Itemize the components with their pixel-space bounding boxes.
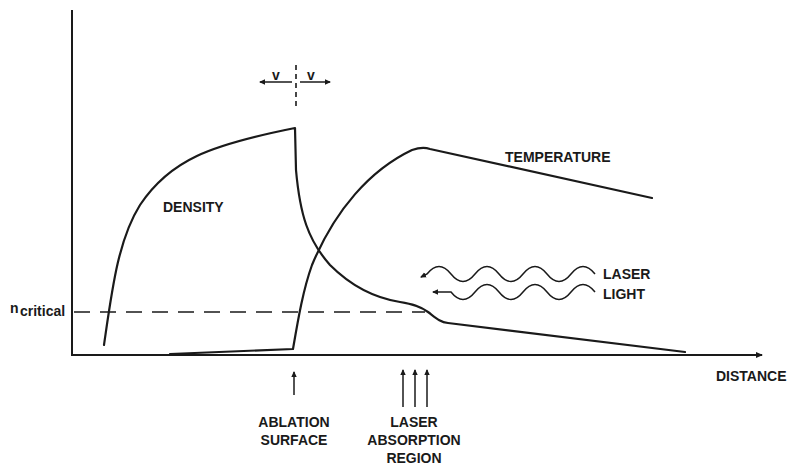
absorption-region-annotation: LASER ABSORPTION REGION bbox=[367, 370, 460, 466]
density-label: DENSITY bbox=[163, 199, 224, 215]
absorption-line1: LASER bbox=[390, 414, 437, 430]
velocity-left-label: v bbox=[272, 67, 280, 83]
absorption-line3: REGION bbox=[386, 450, 441, 466]
absorption-line2: ABSORPTION bbox=[367, 432, 460, 448]
n-critical-main: n bbox=[10, 300, 19, 316]
x-axis-label: DISTANCE bbox=[716, 368, 787, 384]
laser-light-waves: LASER LIGHT bbox=[421, 266, 650, 302]
velocity-marker: v v bbox=[260, 65, 330, 108]
laser-label-line2: LIGHT bbox=[603, 286, 645, 302]
n-critical-label: n critical bbox=[10, 300, 65, 319]
ablation-surface-annotation: ABLATION SURFACE bbox=[258, 372, 329, 448]
n-critical-subscript: critical bbox=[20, 303, 65, 319]
laser-label-line1: LASER bbox=[603, 266, 650, 282]
ablation-line2: SURFACE bbox=[261, 432, 328, 448]
ablation-line1: ABLATION bbox=[258, 414, 329, 430]
temperature-label: TEMPERATURE bbox=[505, 149, 611, 165]
diagram-canvas: v v DENSITY TEMPERATURE n critical LASER… bbox=[0, 0, 808, 473]
velocity-right-label: v bbox=[307, 67, 315, 83]
temperature-curve bbox=[170, 148, 652, 354]
